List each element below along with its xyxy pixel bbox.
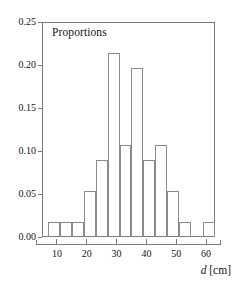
x-tick-label: 60 [201, 247, 211, 260]
x-tick-mark [56, 239, 57, 244]
x-tick-label: 20 [82, 247, 92, 260]
x-tick-label: 40 [141, 247, 151, 260]
x-tick-label: 10 [52, 247, 62, 260]
x-tick-mark [116, 239, 117, 244]
x-tick-mark [176, 239, 177, 244]
x-axis-unit: [cm] [209, 264, 231, 276]
x-axis-title: d [cm] [201, 263, 231, 277]
x-tick-mark [146, 239, 147, 244]
x-tick-label: 50 [171, 247, 181, 260]
histogram-figure: Proportions 0.000.050.100.150.200.25 102… [0, 0, 249, 288]
x-tick-label: 30 [112, 247, 122, 260]
x-tick-mark [206, 239, 207, 244]
x-axis: 102030405060 [0, 0, 249, 288]
x-tick-mark [86, 239, 87, 244]
